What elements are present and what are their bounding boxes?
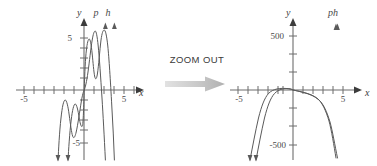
zoom-out-annotation: ZOOM OUT: [162, 54, 232, 99]
left-y-axis-label: y: [76, 7, 82, 18]
left-x-tick-label-5: 5: [122, 94, 127, 104]
right-curve-h: [254, 24, 340, 162]
figure-root: x y 5 -5 -5 5 p h ZOOM OUT: [0, 0, 377, 166]
left-curve-p: [56, 23, 108, 162]
right-x-tick-label-5: 5: [341, 94, 346, 104]
left-x-axis-label: x: [138, 87, 144, 98]
right-y-tick-label-neg500: -500: [270, 140, 287, 150]
right-graph-panel: x y 500 -500 -5 5 ph: [228, 0, 377, 166]
zoom-out-arrow: [165, 76, 227, 92]
right-curve-label-ph: ph: [327, 7, 338, 18]
right-graph-svg: x y 500 -500 -5 5 ph: [228, 0, 377, 166]
right-x-axis: [230, 86, 362, 94]
right-y-axis-label: y: [285, 7, 291, 18]
left-x-tick-label-neg5: -5: [20, 94, 28, 104]
right-x-axis-label: x: [364, 87, 370, 98]
left-graph-panel: x y 5 -5 -5 5 p h: [0, 0, 165, 166]
left-y-tick-label-5: 5: [68, 33, 73, 43]
right-y-tick-label-500: 500: [271, 31, 285, 41]
right-x-tick-label-neg5: -5: [235, 94, 243, 104]
left-x-axis: [16, 86, 144, 94]
left-graph-svg: x y 5 -5 -5 5 p h: [0, 0, 165, 166]
left-curve-label-p: p: [93, 7, 99, 18]
left-curve-label-h: h: [106, 7, 111, 18]
thick-right-arrow-icon: [165, 76, 227, 92]
zoom-out-label: ZOOM OUT: [162, 54, 232, 65]
left-y-tick-label-neg5: -5: [73, 138, 81, 148]
